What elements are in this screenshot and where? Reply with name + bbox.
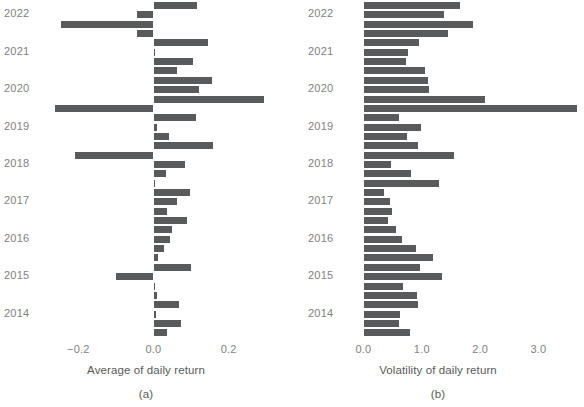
y-tick-label: 2018	[4, 157, 29, 169]
bar	[154, 236, 171, 243]
bar	[116, 273, 154, 280]
bar	[364, 198, 391, 205]
bar	[364, 264, 421, 271]
bar	[55, 105, 154, 112]
bar	[154, 124, 158, 131]
bar	[154, 58, 193, 65]
plot-area-b: 2022202120202019201820172016201520140.01…	[292, 0, 584, 338]
y-tick-label: 2019	[4, 120, 29, 132]
y-tick-label: 2021	[4, 45, 29, 57]
bar	[154, 264, 192, 271]
bar	[364, 86, 430, 93]
x-tick-label: 0.2	[209, 343, 249, 355]
bar	[154, 86, 199, 93]
bar	[75, 152, 154, 159]
x-tick-label: 1.0	[402, 343, 442, 355]
bar	[154, 245, 164, 252]
bar	[364, 152, 455, 159]
x-axis-label-a: Average of daily return	[0, 364, 292, 376]
bar	[154, 283, 155, 290]
bar	[154, 301, 180, 308]
bar	[364, 114, 400, 121]
bar	[364, 189, 384, 196]
bar	[364, 77, 429, 84]
bar	[364, 11, 444, 18]
bar	[364, 124, 422, 131]
panel-a: 202220212020201920182017201620152014−0.2…	[0, 0, 292, 407]
bar	[364, 96, 486, 103]
bar	[154, 320, 181, 327]
bar	[154, 254, 159, 261]
bar	[154, 189, 191, 196]
panel-b: 2022202120202019201820172016201520140.01…	[292, 0, 584, 407]
y-tick-label: 2014	[308, 307, 333, 319]
y-tick-label: 2021	[308, 45, 333, 57]
bar	[154, 311, 157, 318]
y-tick-label: 2015	[308, 269, 333, 281]
y-tick-label: 2016	[308, 232, 333, 244]
bar	[364, 320, 400, 327]
bar	[364, 2, 460, 9]
bar	[364, 180, 440, 187]
bar	[364, 217, 388, 224]
bar	[154, 142, 213, 149]
bar	[154, 39, 209, 46]
bar	[154, 96, 265, 103]
bar	[364, 283, 403, 290]
bar	[364, 39, 420, 46]
y-tick-label: 2014	[4, 307, 29, 319]
y-tick-label: 2016	[4, 232, 29, 244]
bar	[364, 67, 426, 74]
bar	[364, 245, 416, 252]
x-axis-label-b: Volatility of daily return	[292, 364, 584, 376]
bar	[364, 311, 400, 318]
x-tick-label: 0.0	[344, 343, 384, 355]
bar	[364, 301, 418, 308]
bar	[364, 133, 408, 140]
bar	[154, 114, 196, 121]
bar	[364, 329, 410, 336]
bar	[154, 217, 188, 224]
bar	[364, 105, 577, 112]
bar	[364, 30, 449, 37]
bar	[154, 67, 178, 74]
bar	[154, 198, 177, 205]
y-tick-label: 2019	[308, 120, 333, 132]
bar	[364, 161, 392, 168]
bar	[154, 329, 167, 336]
y-tick-label: 2020	[308, 82, 333, 94]
x-tick-label: −0.2	[58, 343, 98, 355]
bar	[154, 161, 186, 168]
bar	[364, 236, 402, 243]
bar	[154, 49, 155, 56]
bar	[61, 21, 153, 28]
bar	[364, 142, 418, 149]
bar	[364, 292, 418, 299]
x-tick-label: 0.0	[134, 343, 174, 355]
bar	[364, 254, 434, 261]
bar	[364, 21, 473, 28]
bar	[364, 273, 443, 280]
bar	[137, 11, 154, 18]
panel-caption-b: (b)	[292, 388, 584, 400]
figure-container: 202220212020201920182017201620152014−0.2…	[0, 0, 584, 407]
y-tick-label: 2017	[4, 194, 29, 206]
bar	[154, 77, 212, 84]
y-tick-label: 2022	[4, 7, 29, 19]
bar	[364, 226, 396, 233]
bar	[154, 170, 166, 177]
bar	[154, 180, 156, 187]
bar	[364, 49, 408, 56]
bar	[154, 226, 172, 233]
bar	[154, 208, 168, 215]
y-tick-label: 2022	[308, 7, 333, 19]
bar	[137, 30, 154, 37]
bar	[364, 170, 412, 177]
plot-area-a: 202220212020201920182017201620152014−0.2…	[0, 0, 292, 338]
y-tick-label: 2020	[4, 82, 29, 94]
x-tick-label: 2.0	[460, 343, 500, 355]
bar	[364, 58, 407, 65]
y-tick-label: 2017	[308, 194, 333, 206]
x-tick-label: 3.0	[518, 343, 558, 355]
bar	[154, 133, 169, 140]
